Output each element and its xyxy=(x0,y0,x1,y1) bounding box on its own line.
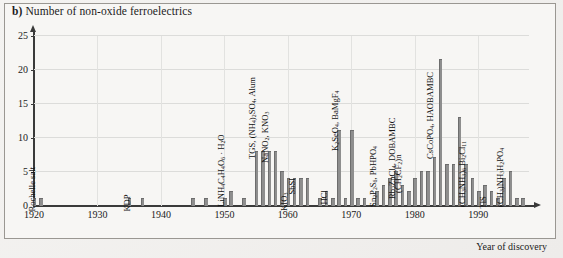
x-tick-label-1980: 1980 xyxy=(398,210,432,220)
bar xyxy=(344,198,348,206)
bar-annotation: (CH3NH3)6 Bi2Cl11 xyxy=(458,141,469,207)
y-tick-label-25: 25 xyxy=(4,31,28,41)
bar xyxy=(509,171,513,206)
bar xyxy=(191,198,195,206)
gridline-x-1990 xyxy=(478,36,479,206)
bar-annotation: CsCoPO4, HAOBAMBC xyxy=(426,72,437,159)
panel-letter: b) xyxy=(12,5,22,17)
bar xyxy=(471,178,475,206)
bar-annotation: (CH2CF2)n xyxy=(394,155,405,193)
gridline-x-1930 xyxy=(97,36,98,206)
bar xyxy=(306,178,310,206)
y-tick-label-20: 20 xyxy=(4,65,28,75)
x-tick-label-1970: 1970 xyxy=(334,210,368,220)
bar-annotation: TlS xyxy=(479,196,488,208)
bar-annotation: LiNH4C4H4O6 · H2O xyxy=(217,134,228,206)
gridline-y-10 xyxy=(34,137,529,138)
bar-annotation: SbSI xyxy=(289,178,298,195)
bar xyxy=(521,198,525,206)
bar-annotation: K2SeO4, BaMgF4 xyxy=(331,91,342,151)
bar-annotation: HCl xyxy=(321,190,330,204)
bar xyxy=(433,157,437,206)
bar-annotation: KDP xyxy=(124,194,133,211)
bar xyxy=(242,198,246,206)
x-tick-label-1950: 1950 xyxy=(207,210,241,220)
bar xyxy=(382,185,386,206)
x-tick-label-1990: 1990 xyxy=(461,210,495,220)
bar xyxy=(515,198,519,206)
bar xyxy=(413,178,417,206)
bar xyxy=(255,151,259,206)
bar xyxy=(39,198,43,206)
bar xyxy=(141,198,145,206)
bar xyxy=(439,59,443,206)
bar-annotation: Sn2P2S6, PbHPO4 xyxy=(369,146,380,207)
bar xyxy=(407,191,411,206)
x-tick-label-1960: 1960 xyxy=(271,210,305,220)
y-axis-arrow xyxy=(30,25,36,32)
x-tick-label-1940: 1940 xyxy=(144,210,178,220)
figure-background: b) Number of non-oxide ferroelectrics 05… xyxy=(0,0,563,258)
bar xyxy=(490,191,494,206)
bar-annotation: TGS, (NH4)2SO4, Alum xyxy=(248,77,259,159)
bar xyxy=(426,171,430,206)
y-tick-label-15: 15 xyxy=(4,99,28,109)
x-axis-title: Year of discovery xyxy=(476,241,547,252)
gridline-y-25 xyxy=(34,35,529,36)
figure-title: b) Number of non-oxide ferroelectrics xyxy=(12,5,192,17)
bar xyxy=(299,178,303,206)
bar xyxy=(274,151,278,206)
x-axis-arrow xyxy=(534,202,541,208)
bar xyxy=(229,191,233,206)
bar xyxy=(356,198,360,206)
bar xyxy=(363,198,367,206)
gridline-y-20 xyxy=(34,69,529,70)
bar-annotation: NaNO2, KNO3 xyxy=(261,112,272,163)
y-tick-label-10: 10 xyxy=(4,133,28,143)
x-tick-label-1930: 1930 xyxy=(80,210,114,220)
bar xyxy=(420,171,424,206)
bar-annotation: (CH3)NH3H2PO4 xyxy=(496,148,507,207)
bar xyxy=(331,198,335,206)
title-text: Number of non-oxide ferroelectrics xyxy=(25,5,192,17)
bar-annotation: Rochelle salt xyxy=(29,167,38,212)
bar-annotation: KIO3 xyxy=(280,193,291,211)
gridline-y-15 xyxy=(34,103,529,104)
y-tick-label-5: 5 xyxy=(4,167,28,177)
plot-area xyxy=(34,36,529,206)
bar xyxy=(445,164,449,206)
bar xyxy=(350,130,354,206)
gridline-x-1940 xyxy=(161,36,162,206)
bar xyxy=(204,198,208,206)
bar xyxy=(452,164,456,206)
